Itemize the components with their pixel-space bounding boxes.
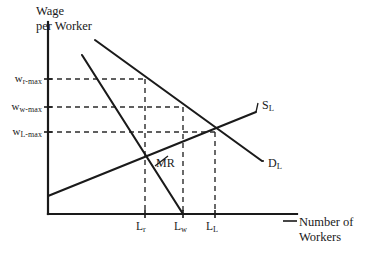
axes-group: [48, 22, 297, 221]
y-axis-title: Wage per Worker: [36, 4, 92, 34]
curve-label-supply: SL: [262, 98, 274, 113]
curves-group: [48, 40, 264, 214]
quantity-tick-label-L-r: Lr: [136, 220, 146, 235]
curve-label-demand: DL: [268, 156, 282, 171]
wage-tick-label-w-w-max: ww-max: [12, 100, 42, 114]
x-axis-title: Number of Workers: [299, 215, 354, 245]
wage-tick-label-w-L-max: wL-max: [12, 125, 42, 139]
quantity-tick-label-L-w: Lw: [174, 220, 187, 235]
axis-ticks-group: [44, 79, 215, 218]
guide-lines-group: [48, 79, 215, 214]
wage-tick-label-w-r-max: wr-max: [15, 72, 42, 86]
figure-container: Wage per Worker Number of Workers wr-max…: [0, 0, 369, 254]
curve-label-marginal-revenue: MR: [156, 156, 175, 170]
leader-supply: [256, 103, 258, 112]
curve-supply: [48, 112, 256, 196]
quantity-tick-label-L-L: LL: [206, 220, 218, 235]
